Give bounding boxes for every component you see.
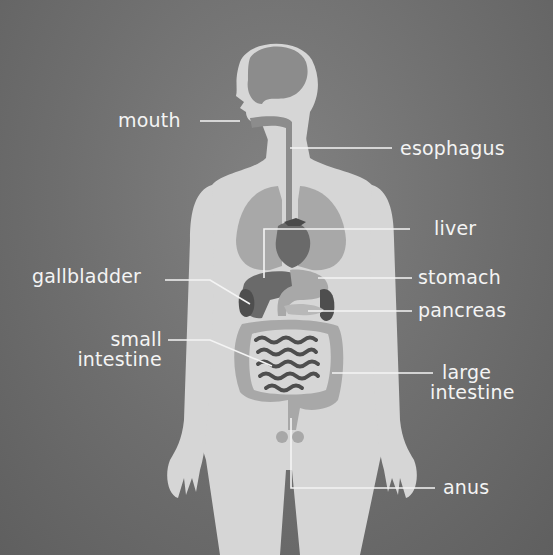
label-stomach: stomach xyxy=(418,267,501,287)
label-mouth: mouth xyxy=(118,110,181,130)
label-small-intestine-line1: small xyxy=(84,329,162,349)
label-small-intestine-line2: intestine xyxy=(66,349,162,369)
label-large-intestine-line2: intestine xyxy=(430,382,515,402)
label-gallbladder: gallbladder xyxy=(32,266,141,286)
esophagus-shape xyxy=(286,124,292,230)
digestive-system-diagram: mouth esophagus liver gallbladder stomac… xyxy=(0,0,553,555)
label-large-intestine-line1: large xyxy=(442,362,491,382)
label-anus: anus xyxy=(443,477,489,497)
label-esophagus: esophagus xyxy=(400,138,505,158)
label-pancreas: pancreas xyxy=(418,300,506,320)
label-liver: liver xyxy=(434,218,476,238)
